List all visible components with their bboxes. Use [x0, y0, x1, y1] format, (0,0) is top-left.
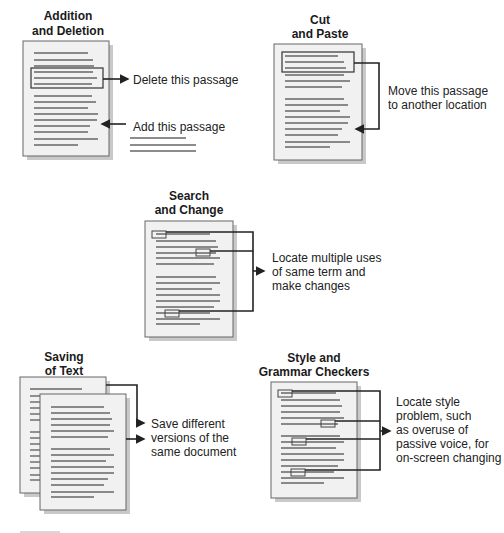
panel-title-line-2: and Paste: [292, 27, 349, 41]
panel-title-line-1: Style and: [287, 351, 340, 365]
panel-cut-paste: Cut and Paste Move this passage to anoth…: [274, 13, 488, 164]
panel-title-line-2: and Deletion: [32, 24, 104, 38]
panel-style-grammar: Style and Grammar Checkers: [259, 351, 502, 502]
annotation-line-2: of same term and: [272, 265, 365, 279]
annotation-line-1: Move this passage: [388, 84, 488, 98]
annotation-line-2: versions of the: [151, 431, 229, 445]
panel-title-line-1: Addition: [44, 9, 93, 23]
annotation-line-1: Locate multiple uses: [272, 251, 381, 265]
annotation-line-3: make changes: [272, 279, 350, 293]
panel-saving-text: Saving of Text: [20, 350, 237, 514]
panel-title-line-1: Saving: [44, 350, 83, 364]
panel-title-line-1: Search: [169, 189, 209, 203]
word-processing-functions-diagram: Addition and Deletion Delete this passag…: [0, 0, 504, 533]
annotation-add: Add this passage: [133, 120, 225, 134]
annotation-line-2: problem, such: [396, 409, 471, 423]
panel-title-line-1: Cut: [310, 13, 330, 27]
annotation-line-3: same document: [151, 445, 237, 459]
panel-search-change: Search and Change Locate multiple use: [145, 189, 381, 341]
annotation-line-4: passive voice, for: [396, 437, 489, 451]
annotation-line-3: as overuse of: [396, 423, 469, 437]
panel-title-line-2: and Change: [155, 203, 224, 217]
panel-title-line-2: Grammar Checkers: [259, 365, 370, 379]
panel-title-line-2: of Text: [45, 364, 83, 378]
annotation-line-2: to another location: [388, 98, 487, 112]
annotation-line-1: Save different: [151, 417, 225, 431]
panel-addition-deletion: Addition and Deletion Delete this passag…: [23, 9, 239, 160]
annotation-line-1: Locate style: [396, 395, 460, 409]
annotation-delete: Delete this passage: [133, 73, 239, 87]
annotation-line-5: on-screen changing: [396, 451, 501, 465]
